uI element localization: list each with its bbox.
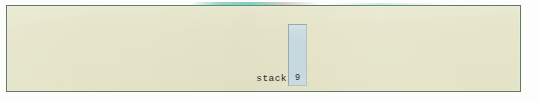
stack-cell-value: 9 <box>289 73 306 83</box>
diagram-canvas: stack 9 <box>0 0 539 102</box>
stack-group: stack 9 <box>251 18 321 88</box>
stack-box: 9 <box>288 24 307 86</box>
memory-diagram-panel: stack 9 <box>6 5 521 92</box>
stack-label: stack <box>251 74 287 84</box>
